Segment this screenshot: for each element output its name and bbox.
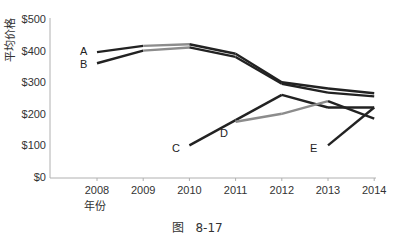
y-tick-label: $100: [22, 139, 46, 151]
series-segment: [328, 101, 374, 118]
series-lines: [97, 44, 374, 145]
x-tick-label: 2011: [224, 184, 248, 196]
y-axis-ticks: $0$100$200$300$400$500: [22, 13, 46, 183]
series-segment: [236, 95, 282, 120]
series-label-a: A: [80, 45, 88, 57]
x-tick-label: 2009: [131, 184, 155, 196]
series-segment: [97, 51, 143, 64]
y-axis-title: 平均价格: [3, 18, 17, 62]
line-chart: 平均价格 $0$100$200$300$400$500 200820092010…: [0, 0, 394, 246]
series-e: [328, 107, 374, 145]
series-label-e: E: [310, 142, 317, 154]
series-label-c: C: [172, 142, 180, 154]
series-c: [189, 95, 374, 146]
y-tick-label: $200: [22, 108, 46, 120]
series-labels: ABCDE: [80, 45, 317, 154]
series-segment: [189, 120, 235, 145]
x-tick-label: 2012: [270, 184, 294, 196]
y-tick-label: $0: [34, 171, 46, 183]
y-axis-label: 平均价格: [3, 18, 17, 62]
series-segment: [143, 44, 189, 46]
series-label-b: B: [80, 58, 87, 70]
series-segment: [236, 57, 282, 84]
series-segment: [328, 107, 374, 145]
x-axis-label: 年份: [84, 199, 106, 213]
figure-caption: 图 8-17: [172, 221, 223, 235]
y-tick-label: $400: [22, 45, 46, 57]
series-segment: [97, 46, 143, 52]
x-tick-label: 2013: [316, 184, 340, 196]
series-label-d: D: [220, 127, 228, 139]
series-segment: [236, 54, 282, 82]
series-d: [236, 101, 375, 122]
x-tick-label: 2010: [177, 184, 201, 196]
x-axis-ticks: 2008200920102011201220132014: [85, 178, 387, 196]
series-segment: [282, 101, 328, 114]
x-tick-label: 2008: [85, 184, 109, 196]
y-tick-label: $300: [22, 76, 46, 88]
x-tick-label: 2014: [362, 184, 386, 196]
series-segment: [282, 95, 328, 108]
y-tick-label: $500: [22, 13, 46, 25]
series-segment: [143, 47, 189, 50]
